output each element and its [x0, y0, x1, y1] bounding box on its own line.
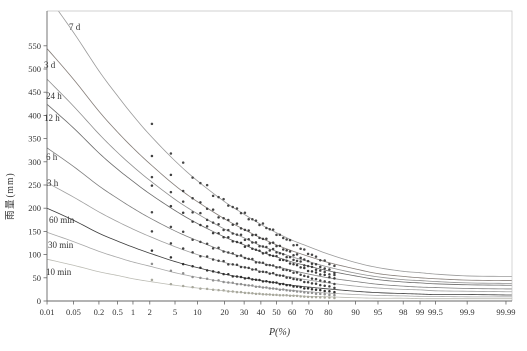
y-axis-title: 雨量(mm) — [2, 160, 16, 232]
x-axis-title: P(%) — [47, 326, 512, 337]
chart-canvas — [0, 0, 527, 351]
rainfall-frequency-chart: 雨量(mm) P(%) — [0, 0, 527, 351]
